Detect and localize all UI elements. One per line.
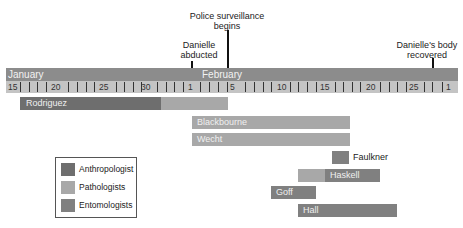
day-label: 25 bbox=[99, 81, 108, 93]
tick bbox=[290, 82, 291, 92]
tick bbox=[183, 82, 184, 92]
tick bbox=[77, 82, 78, 92]
tick bbox=[352, 82, 353, 92]
bar-label-blackbourne: Blackbourne bbox=[197, 116, 247, 129]
event-line1: Danielle bbox=[174, 40, 224, 50]
tick bbox=[86, 82, 87, 92]
month-label-january: January bbox=[8, 68, 44, 81]
tick bbox=[46, 82, 47, 92]
tick bbox=[432, 82, 433, 92]
event-label-abducted: Danielle abducted bbox=[174, 40, 224, 60]
day-label: 30 bbox=[141, 81, 150, 93]
tick bbox=[380, 82, 381, 92]
tick bbox=[20, 82, 21, 92]
tick bbox=[298, 82, 299, 92]
bar-label-faulkner: Faulkner bbox=[353, 151, 388, 164]
tick bbox=[397, 82, 398, 92]
legend-label: Anthropologist bbox=[79, 163, 133, 176]
bar-label-hall: Hall bbox=[303, 204, 319, 217]
tick bbox=[124, 82, 125, 92]
day-label: 25 bbox=[409, 81, 418, 93]
tick bbox=[343, 82, 344, 92]
tick bbox=[218, 82, 219, 92]
bar-faulkner bbox=[332, 151, 349, 164]
legend-label: Pathologists bbox=[79, 181, 125, 194]
tick bbox=[116, 82, 117, 92]
tick bbox=[307, 82, 308, 92]
tick bbox=[157, 82, 158, 92]
tick bbox=[254, 82, 255, 92]
day-label: 10 bbox=[277, 81, 286, 93]
legend-swatch bbox=[61, 163, 75, 176]
tick bbox=[174, 82, 175, 92]
tick bbox=[133, 82, 134, 92]
tick bbox=[316, 82, 317, 92]
bar-label-rodriguez: Rodriguez bbox=[26, 97, 67, 110]
day-label: 20 bbox=[51, 81, 60, 93]
tick bbox=[227, 82, 228, 92]
tick bbox=[141, 82, 142, 92]
tick bbox=[406, 82, 407, 92]
legend-swatch bbox=[61, 181, 75, 194]
event-line2: recovered bbox=[393, 50, 461, 60]
legend: Anthropologist Pathologists Entomologist… bbox=[55, 157, 137, 218]
event-label-body-recovered: Danielle's body recovered bbox=[393, 40, 461, 60]
day-label: 5 bbox=[230, 81, 235, 93]
month-label-february: February bbox=[202, 68, 242, 81]
bar-rodriguez-pathologists bbox=[161, 97, 228, 110]
event-label-surveillance: Police surveillance begins bbox=[187, 11, 267, 31]
tick bbox=[68, 82, 69, 92]
tick bbox=[29, 82, 30, 92]
tick bbox=[424, 82, 425, 92]
day-label: 20 bbox=[366, 81, 375, 93]
tick bbox=[271, 82, 272, 92]
event-line1: Danielle's body bbox=[393, 40, 461, 50]
bar-haskell-pathologists bbox=[298, 169, 325, 182]
bar-label-haskell: Haskell bbox=[330, 169, 360, 182]
tick bbox=[442, 82, 443, 92]
tick bbox=[166, 82, 167, 92]
tick bbox=[37, 82, 38, 92]
tick bbox=[245, 82, 246, 92]
legend-label: Entomologists bbox=[79, 199, 132, 212]
day-label: 15 bbox=[8, 81, 17, 93]
event-line2: abducted bbox=[174, 50, 224, 60]
tick bbox=[94, 82, 95, 92]
day-label: 1 bbox=[188, 81, 193, 93]
legend-swatch bbox=[61, 199, 75, 212]
event-line1: Police surveillance bbox=[187, 11, 267, 21]
tick bbox=[200, 82, 201, 92]
day-label: 15 bbox=[320, 81, 329, 93]
tick bbox=[263, 82, 264, 92]
bar-label-goff: Goff bbox=[276, 186, 293, 199]
bar-label-wecht: Wecht bbox=[197, 133, 222, 146]
tick bbox=[335, 82, 336, 92]
tick bbox=[360, 82, 361, 92]
day-label: 1 bbox=[446, 81, 451, 93]
tick bbox=[209, 82, 210, 92]
tick bbox=[389, 82, 390, 92]
